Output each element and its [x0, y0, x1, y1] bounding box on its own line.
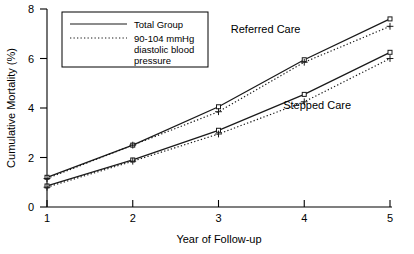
chart-svg: 02468 12345 Referred CareStepped Care To… [0, 0, 414, 254]
x-axis-title: Year of Follow-up [176, 233, 261, 245]
y-tick-label: 6 [28, 53, 34, 65]
y-axis-title: Cumulative Mortality (%) [5, 48, 17, 168]
legend-label-subgroup-line2: diastolic blood [134, 44, 194, 55]
annotation-stepped-care: Stepped Care [283, 99, 351, 111]
data-point-marker [388, 50, 392, 54]
y-tick-label: 4 [28, 102, 34, 114]
x-tick-label: 5 [387, 212, 393, 224]
x-tick-label: 2 [130, 212, 136, 224]
legend-label-subgroup-line1: 90-104 mmHg [134, 33, 194, 44]
chart-legend: Total Group 90-104 mmHg diastolic blood … [62, 12, 208, 67]
x-tick-label: 3 [215, 212, 221, 224]
chart-figure: 02468 12345 Referred CareStepped Care To… [0, 0, 414, 254]
x-tick-label: 1 [44, 212, 50, 224]
data-point-marker [302, 92, 306, 96]
data-point-marker [388, 17, 392, 21]
x-tick-label: 4 [301, 212, 307, 224]
legend-label-total-group: Total Group [134, 19, 183, 30]
annotation-referred-care: Referred Care [231, 23, 301, 35]
y-tick-label: 2 [28, 152, 34, 164]
data-point-marker [217, 105, 221, 109]
y-tick-label: 8 [28, 3, 34, 15]
y-tick-label: 0 [28, 201, 34, 213]
legend-label-subgroup-line3: pressure [134, 55, 171, 66]
